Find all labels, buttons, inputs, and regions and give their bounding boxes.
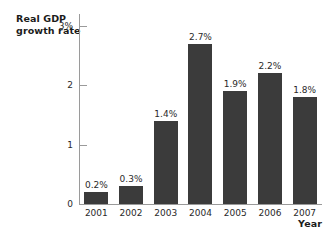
bar-chart: Real GDP growth rate Year 0123% 0.2%0.3%… [0, 0, 329, 240]
bar-value-label-2007: 1.8% [293, 85, 316, 95]
bar-2005[interactable] [223, 91, 247, 204]
bar-value-label-2002: 0.3% [120, 174, 143, 184]
plot-area: 0.2%0.3%1.4%2.7%1.9%2.2%1.8% [79, 14, 322, 204]
y-tick-label: 1 [44, 140, 73, 150]
x-tick-label-2002: 2002 [120, 208, 143, 218]
bar-value-label-2005: 1.9% [224, 79, 247, 89]
x-axis-title: Year [298, 218, 322, 230]
x-tick-label-2007: 2007 [293, 208, 316, 218]
y-tick-label: 0 [44, 199, 73, 209]
bar-slot: 0.2% [79, 14, 114, 204]
bar-2006[interactable] [258, 73, 282, 204]
bar-2002[interactable] [119, 186, 143, 204]
bar-2007[interactable] [293, 97, 317, 204]
y-tick-label: 3% [44, 21, 73, 31]
y-tick-label: 2 [44, 80, 73, 90]
bar-slot: 2.2% [253, 14, 288, 204]
bar-value-label-2003: 1.4% [154, 109, 177, 119]
bar-value-label-2006: 2.2% [258, 61, 281, 71]
x-tick-label-2004: 2004 [189, 208, 212, 218]
bar-slot: 1.9% [218, 14, 253, 204]
x-tick-label-2005: 2005 [224, 208, 247, 218]
x-tick-label-2006: 2006 [258, 208, 281, 218]
bar-2001[interactable] [84, 192, 108, 204]
x-tick-label-2001: 2001 [85, 208, 108, 218]
bar-slot: 0.3% [114, 14, 149, 204]
bar-value-label-2004: 2.7% [189, 32, 212, 42]
bar-2003[interactable] [154, 121, 178, 204]
bar-slot: 1.4% [148, 14, 183, 204]
bar-value-label-2001: 0.2% [85, 180, 108, 190]
x-axis-line [79, 204, 322, 205]
bar-slot: 2.7% [183, 14, 218, 204]
bar-2004[interactable] [188, 44, 212, 204]
x-tick-label-2003: 2003 [154, 208, 177, 218]
bar-slot: 1.8% [287, 14, 322, 204]
